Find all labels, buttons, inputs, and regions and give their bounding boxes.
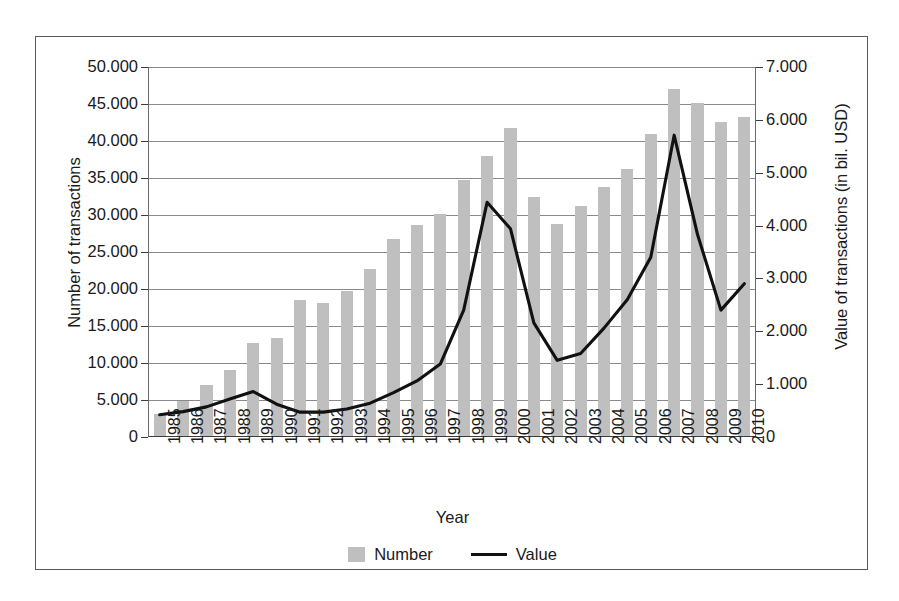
x-axis-tick-label: 2008 [705, 408, 721, 444]
x-axis-tick-label: 1996 [424, 408, 440, 444]
x-axis-tick-label: 2009 [728, 408, 744, 444]
legend-item-value: Value [471, 545, 557, 564]
figure: Number of transactions Value of transact… [0, 0, 899, 601]
y-axis-left-tick [141, 326, 148, 327]
y-axis-left-tick-label: 45.000 [18, 95, 138, 112]
y-axis-left-tick [141, 289, 148, 290]
x-axis-tick-label: 2006 [658, 408, 674, 444]
y-axis-left-tick-label: 40.000 [18, 132, 138, 149]
x-axis-tick-label: 1995 [401, 408, 417, 444]
x-axis-tick-label: 1997 [447, 408, 463, 444]
x-axis-tick-label: 1992 [330, 408, 346, 444]
x-axis-tick-label: 2004 [611, 408, 627, 444]
y-axis-right-tick-label: 2.000 [766, 322, 886, 339]
y-axis-left-tick-label: 10.000 [18, 354, 138, 371]
y-axis-left-tick [141, 252, 148, 253]
legend-item-number: Number [348, 545, 433, 564]
bar-swatch-icon [348, 547, 365, 562]
y-axis-left-tick [141, 363, 148, 364]
x-axis-tick-label: 2001 [541, 408, 557, 444]
y-axis-right-tick [756, 120, 763, 121]
y-axis-left-tick [141, 215, 148, 216]
y-axis-right-tick-label: 5.000 [766, 164, 886, 181]
legend-label-number: Number [374, 545, 433, 564]
x-axis-tick-label: 1985 [167, 408, 183, 444]
x-axis-tick-label: 2002 [564, 408, 580, 444]
y-axis-right-tick [756, 278, 763, 279]
y-axis-left-tick-label: 35.000 [18, 169, 138, 186]
value-line-path [160, 135, 745, 415]
line-series-value [148, 67, 756, 437]
y-axis-right-tick [756, 67, 763, 68]
y-axis-left-tick [141, 178, 148, 179]
y-axis-left-tick [141, 141, 148, 142]
x-axis-tick-label: 2005 [634, 408, 650, 444]
chart-frame: Number of transactions Value of transact… [35, 36, 868, 570]
x-axis-tick-label: 1988 [237, 408, 253, 444]
y-axis-left-tick [141, 67, 148, 68]
x-axis-tick-label: 2000 [517, 408, 533, 444]
x-axis-tick-label: 1999 [494, 408, 510, 444]
x-axis-tick-label: 1991 [307, 408, 323, 444]
x-axis-tick-label: 2010 [751, 408, 767, 444]
x-axis-tick-label: 1994 [377, 408, 393, 444]
y-axis-left-tick-label: 30.000 [18, 206, 138, 223]
y-axis-left-tick-label: 25.000 [18, 243, 138, 260]
line-swatch-icon [471, 553, 507, 556]
x-axis-tick-label: 2007 [681, 408, 697, 444]
y-axis-right-tick [756, 173, 763, 174]
plot-area: 05.00010.00015.00020.00025.00030.00035.0… [148, 67, 756, 437]
y-axis-left-tick-label: 50.000 [18, 58, 138, 75]
y-axis-right-tick-label: 1.000 [766, 375, 886, 392]
y-axis-right-tick-label: 3.000 [766, 269, 886, 286]
y-axis-right-tick [756, 226, 763, 227]
legend-label-value: Value [516, 545, 557, 564]
y-axis-right-tick-label: 4.000 [766, 217, 886, 234]
x-axis-tick-label: 1987 [213, 408, 229, 444]
x-axis-tick-label: 1989 [260, 408, 276, 444]
x-axis-tick-label: 1998 [471, 408, 487, 444]
x-axis-tick-label: 2003 [588, 408, 604, 444]
legend: Number Value [36, 545, 869, 564]
y-axis-left-tick-label: 5.000 [18, 391, 138, 408]
y-axis-left-tick-label: 15.000 [18, 317, 138, 334]
y-axis-left-tick [141, 400, 148, 401]
y-axis-left-tick-label: 20.000 [18, 280, 138, 297]
x-axis-tick-label: 1990 [284, 408, 300, 444]
y-axis-left-tick [141, 104, 148, 105]
x-axis-title: Year [36, 508, 869, 527]
y-axis-right-tick [756, 384, 763, 385]
x-axis-tick-label: 1993 [354, 408, 370, 444]
y-axis-right-tick-label: 6.000 [766, 111, 886, 128]
y-axis-right-tick [756, 331, 763, 332]
y-axis-right-tick-label: 0 [766, 428, 886, 445]
y-axis-left-tick [141, 437, 148, 438]
y-axis-right-tick-label: 7.000 [766, 58, 886, 75]
y-axis-left-tick-label: 0 [18, 428, 138, 445]
x-axis-tick-label: 1986 [190, 408, 206, 444]
